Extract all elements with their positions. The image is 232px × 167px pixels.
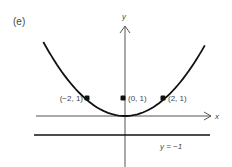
x-axis-label: x [214, 112, 220, 121]
parabola-curve [43, 42, 205, 116]
point-marker [121, 96, 126, 101]
point-marker [161, 96, 166, 101]
y-axis-label: y [121, 12, 127, 21]
point-label: (−2, 1) [60, 94, 84, 103]
parabola-diagram: (e) y x y = −1 (−2, 1)(0, 1)(2, 1) [0, 0, 232, 167]
directrix-label: y = −1 [159, 142, 182, 151]
point-label: (0, 1) [128, 94, 147, 103]
point-marker [85, 96, 90, 101]
point-label: (2, 1) [168, 94, 187, 103]
panel-label: (e) [13, 16, 25, 27]
